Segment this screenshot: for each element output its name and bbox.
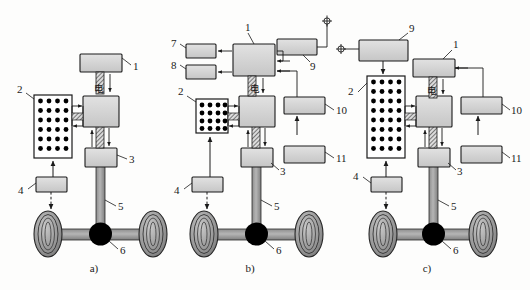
b-wheel-left bbox=[190, 211, 218, 257]
b-callout-4: 4 bbox=[174, 184, 180, 196]
b-callout-1: 1 bbox=[245, 21, 251, 33]
b-callout-7: 7 bbox=[171, 37, 177, 49]
b-callout-10: 10 bbox=[336, 104, 348, 116]
b-box-4-controller bbox=[192, 177, 223, 192]
b-callout-5: 5 bbox=[274, 200, 280, 212]
c-callout-6: 6 bbox=[453, 244, 459, 256]
b-box-1-engine bbox=[233, 44, 275, 76]
c-battery-pack bbox=[367, 76, 405, 158]
c-motor-block bbox=[416, 96, 452, 127]
a-box-4-controller bbox=[36, 177, 67, 192]
c-battery-motor-link bbox=[405, 113, 416, 120]
b-box-3-transmission bbox=[241, 148, 273, 167]
c-callout-4: 4 bbox=[353, 170, 359, 182]
a-callout-5: 5 bbox=[118, 200, 124, 212]
c-box-3-transmission bbox=[418, 148, 450, 167]
a-chinese-label-dian: 电 bbox=[94, 83, 104, 94]
a-box-1-engine bbox=[80, 54, 122, 72]
figure-canvas: 1 2 3 4 5 6 电 a) bbox=[0, 0, 530, 290]
c-callout-2: 2 bbox=[348, 85, 354, 97]
c-motor-gearbox-coupling bbox=[429, 126, 437, 148]
a-wheel-left bbox=[34, 211, 62, 257]
b-differential-hub bbox=[245, 223, 268, 246]
caption-a: a) bbox=[90, 262, 99, 275]
caption-c: c) bbox=[423, 262, 432, 275]
b-callout-8: 8 bbox=[171, 59, 177, 71]
a-callout-3: 3 bbox=[129, 153, 135, 165]
a-callout-2: 2 bbox=[17, 83, 23, 95]
b-chinese-label-dian: 电 bbox=[250, 83, 260, 94]
powertrain-diagram: 1 2 3 4 5 6 电 a) bbox=[0, 0, 530, 290]
c-callout-5: 5 bbox=[451, 200, 457, 212]
b-wheel-right bbox=[295, 211, 323, 257]
a-callout-6: 6 bbox=[120, 244, 126, 256]
b-callout-11: 11 bbox=[336, 152, 347, 164]
c-chinese-label-dian: 电 bbox=[427, 85, 437, 96]
a-wheel-right bbox=[139, 211, 167, 257]
b-box-8 bbox=[186, 65, 216, 79]
c-box-9-telematics bbox=[359, 40, 408, 61]
c-differential-hub bbox=[422, 223, 445, 246]
c-box-11 bbox=[461, 146, 502, 163]
a-differential-hub bbox=[89, 223, 112, 246]
a-callout-1: 1 bbox=[133, 60, 139, 72]
c-box-10 bbox=[461, 97, 502, 114]
caption-b: b) bbox=[245, 262, 255, 275]
a-motor-block bbox=[83, 96, 119, 127]
b-box-10 bbox=[284, 97, 325, 114]
c-callout-1: 1 bbox=[453, 38, 459, 50]
c-box-4-controller bbox=[371, 177, 402, 192]
b-box-11 bbox=[284, 146, 325, 163]
b-motor-block bbox=[239, 96, 275, 127]
b-callout-9: 9 bbox=[310, 60, 316, 72]
b-callout-2: 2 bbox=[178, 85, 184, 97]
c-callout-10: 10 bbox=[511, 104, 523, 116]
c-wheel-right bbox=[469, 211, 497, 257]
a-battery-motor-link bbox=[72, 113, 83, 120]
b-callout-3: 3 bbox=[280, 165, 286, 177]
c-box-1-engine bbox=[413, 59, 455, 77]
a-box-3-transmission bbox=[85, 148, 117, 167]
b-battery-pack bbox=[196, 99, 228, 133]
b-battery-motor-link bbox=[228, 113, 239, 120]
c-callout-11: 11 bbox=[511, 152, 522, 164]
a-battery-pack bbox=[34, 95, 72, 158]
c-callout-9: 9 bbox=[409, 22, 415, 34]
a-callout-4: 4 bbox=[18, 184, 24, 196]
b-box-7 bbox=[186, 44, 216, 58]
c-callout-3: 3 bbox=[457, 165, 463, 177]
b-callout-6: 6 bbox=[276, 244, 282, 256]
b-motor-gearbox-coupling bbox=[252, 126, 260, 148]
a-motor-gearbox-coupling bbox=[96, 126, 104, 148]
c-wheel-left bbox=[369, 211, 397, 257]
